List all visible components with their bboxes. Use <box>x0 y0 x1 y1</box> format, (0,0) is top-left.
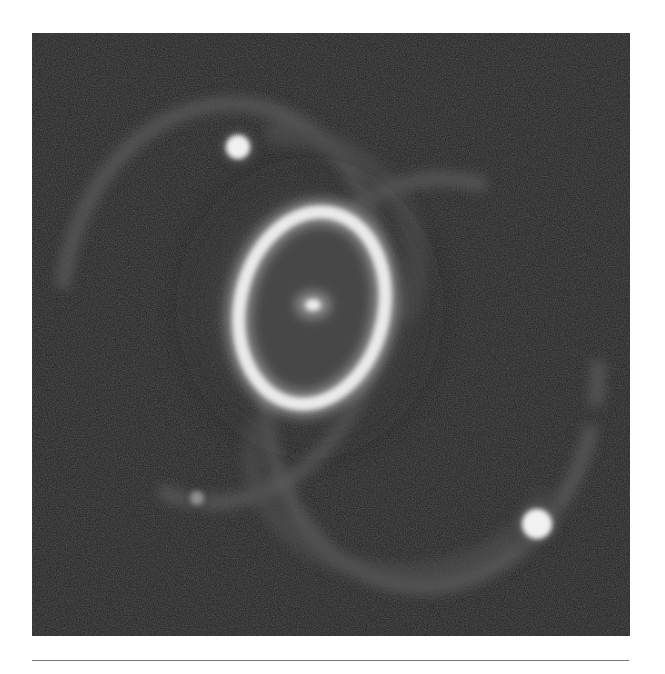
horizontal-rule <box>32 660 629 661</box>
central-remnant <box>295 291 331 319</box>
star-faint-lower-left <box>181 482 213 514</box>
photo-canvas <box>32 33 630 636</box>
star-lower-right <box>503 490 571 558</box>
astronomical-photo <box>32 33 630 636</box>
star-upper-left <box>208 117 268 177</box>
